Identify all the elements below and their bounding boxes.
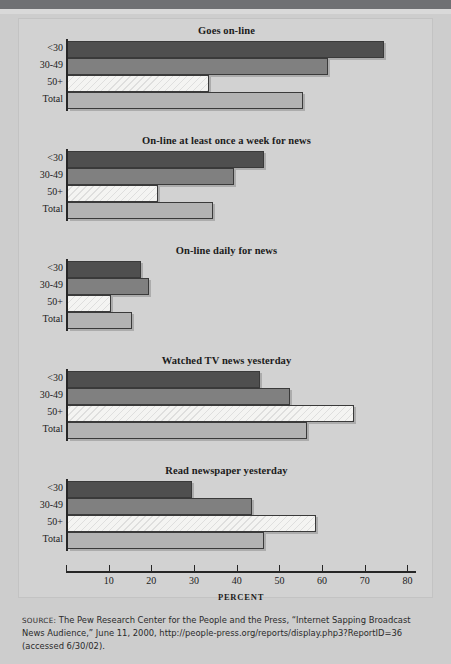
bar [68, 151, 264, 168]
bar-row: <30 [68, 261, 418, 278]
bar [68, 498, 252, 515]
x-tick-label: 30 [189, 575, 199, 586]
panel-plot-area: <3030-4950+Total [66, 369, 416, 441]
x-tick-label: 40 [232, 575, 242, 586]
bar [68, 515, 316, 532]
category-label: <30 [47, 372, 63, 383]
category-label: <30 [47, 152, 63, 163]
x-tick-label: 70 [360, 575, 370, 586]
panel-title: On-line daily for news [19, 245, 434, 256]
x-tick-label: 10 [104, 575, 114, 586]
bar [68, 261, 141, 278]
bar [68, 41, 384, 58]
panel-title: On-line at least once a week for news [19, 135, 434, 146]
category-label: <30 [47, 482, 63, 493]
bar [68, 168, 234, 185]
panel-plot-area: <3030-4950+Total [66, 479, 416, 551]
panel-plot-area: <3030-4950+Total [66, 259, 416, 331]
x-tick [66, 565, 67, 571]
source-label: SOURCE: [22, 616, 56, 625]
category-label: 50+ [47, 296, 63, 307]
x-tick [407, 565, 408, 571]
bar [68, 58, 328, 75]
category-label: 50+ [47, 406, 63, 417]
bar [68, 405, 354, 422]
bar-row: 50+ [68, 75, 418, 92]
category-label: Total [43, 423, 63, 434]
x-tick [322, 565, 323, 571]
category-label: 50+ [47, 186, 63, 197]
panel-title: Read newspaper yesterday [19, 465, 434, 476]
bar-row: 50+ [68, 295, 418, 312]
panel-title: Watched TV news yesterday [19, 355, 434, 366]
bar-row: Total [68, 92, 418, 109]
category-label: Total [43, 203, 63, 214]
bar-row: Total [68, 532, 418, 549]
bar [68, 532, 264, 549]
bar-row: 30-49 [68, 498, 418, 515]
bar-row: 50+ [68, 185, 418, 202]
bar [68, 75, 209, 92]
category-label: 30-49 [40, 169, 63, 180]
category-label: 30-49 [40, 279, 63, 290]
bar-row: 50+ [68, 515, 418, 532]
bar-row: Total [68, 312, 418, 329]
bar [68, 422, 307, 439]
bar-row: <30 [68, 481, 418, 498]
bar [68, 371, 260, 388]
bar-row: <30 [68, 371, 418, 388]
panel-title: Goes on-line [19, 25, 434, 36]
bar [68, 295, 111, 312]
bar-row: Total [68, 202, 418, 219]
page-top-band-shadow [0, 9, 451, 14]
x-tick [151, 565, 152, 571]
category-label: 30-49 [40, 59, 63, 70]
x-tick-label: 80 [402, 575, 412, 586]
x-tick [109, 565, 110, 571]
bar [68, 388, 290, 405]
x-tick [237, 565, 238, 571]
chart-figure: Goes on-line<3030-4950+TotalOn-line at l… [18, 18, 433, 598]
x-tick [279, 565, 280, 571]
bar-row: Total [68, 422, 418, 439]
bar-row: 30-49 [68, 58, 418, 75]
bar-row: 30-49 [68, 168, 418, 185]
category-label: 50+ [47, 76, 63, 87]
source-text: The Pew Research Center for the People a… [22, 615, 411, 651]
category-label: <30 [47, 262, 63, 273]
x-axis: 1020304050607080 [66, 571, 416, 572]
source-note: SOURCE: The Pew Research Center for the … [22, 614, 432, 653]
bar-row: 30-49 [68, 278, 418, 295]
category-label: Total [43, 93, 63, 104]
category-label: Total [43, 313, 63, 324]
figure-page: Goes on-line<3030-4950+TotalOn-line at l… [0, 0, 451, 664]
panel-plot-area: <3030-4950+Total [66, 39, 416, 111]
bar [68, 312, 132, 329]
bar [68, 481, 192, 498]
panel-plot-area: <3030-4950+Total [66, 149, 416, 221]
page-top-band [0, 0, 451, 9]
x-tick-label: 20 [146, 575, 156, 586]
bar-row: <30 [68, 151, 418, 168]
category-label: 30-49 [40, 389, 63, 400]
category-label: Total [43, 533, 63, 544]
x-axis-title: PERCENT [66, 592, 416, 602]
bar-row: 50+ [68, 405, 418, 422]
bar-row: <30 [68, 41, 418, 58]
bar [68, 185, 158, 202]
bar-row: 30-49 [68, 388, 418, 405]
bar [68, 92, 303, 109]
x-tick [365, 565, 366, 571]
x-axis-line [66, 571, 416, 573]
x-tick-label: 60 [317, 575, 327, 586]
category-label: <30 [47, 42, 63, 53]
x-tick [194, 565, 195, 571]
category-label: 30-49 [40, 499, 63, 510]
x-tick-label: 50 [274, 575, 284, 586]
bar [68, 202, 213, 219]
bar [68, 278, 149, 295]
category-label: 50+ [47, 516, 63, 527]
